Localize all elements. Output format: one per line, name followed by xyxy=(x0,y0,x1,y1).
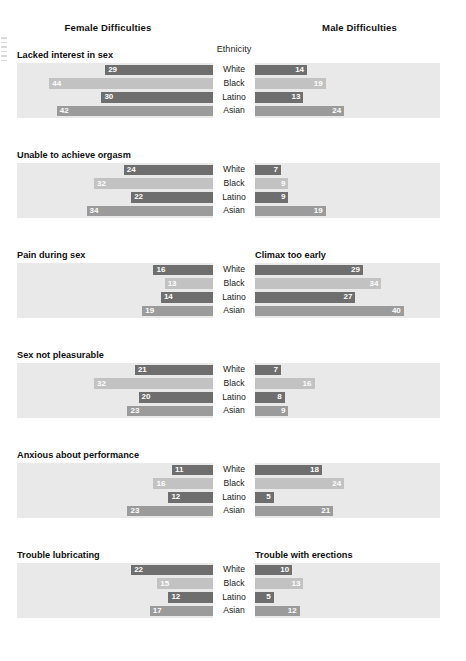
bar-row: 21 xyxy=(17,363,213,377)
group-title-left: Anxious about performance xyxy=(17,450,139,460)
bar-asian: 19 xyxy=(142,306,213,317)
bar-row: 40 xyxy=(255,304,440,318)
bar-value-label: 21 xyxy=(138,366,147,374)
ethnicity-label-latino: Latino xyxy=(213,191,255,205)
bar-value-label: 24 xyxy=(332,107,341,115)
bar-panel-right: 14191324 xyxy=(255,63,440,118)
bar-latino: 13 xyxy=(255,92,303,103)
bar-panel-left: 22151217 xyxy=(17,563,213,618)
bar-row: 13 xyxy=(255,577,440,591)
bar-value-label: 32 xyxy=(97,380,106,388)
bar-row: 24 xyxy=(255,477,440,491)
group-title-left: Lacked interest in sex xyxy=(17,50,113,60)
bar-value-label: 5 xyxy=(266,593,270,601)
bar-row: 8 xyxy=(255,391,440,405)
bar-black: 24 xyxy=(255,478,344,489)
bar-row: 16 xyxy=(255,377,440,391)
bar-value-label: 44 xyxy=(52,80,61,88)
group-title-right: Climax too early xyxy=(255,250,326,260)
bar-asian: 19 xyxy=(255,206,326,217)
bar-asian: 23 xyxy=(127,406,213,417)
bar-white: 7 xyxy=(255,165,281,176)
bar-value-label: 12 xyxy=(171,593,180,601)
bar-value-label: 18 xyxy=(310,466,319,474)
bar-value-label: 12 xyxy=(288,607,297,615)
bar-row: 5 xyxy=(255,491,440,505)
bar-row: 32 xyxy=(17,177,213,191)
bar-row: 14 xyxy=(17,291,213,305)
bar-value-label: 11 xyxy=(175,466,183,474)
bar-value-label: 19 xyxy=(314,207,323,215)
bar-value-label: 23 xyxy=(130,507,139,515)
bar-asian: 42 xyxy=(57,106,213,117)
bar-value-label: 24 xyxy=(332,480,341,488)
ethnicity-label-white: White xyxy=(213,163,255,177)
ethnicity-label-latino: Latino xyxy=(213,591,255,605)
bar-latino: 8 xyxy=(255,392,285,403)
bar-latino: 9 xyxy=(255,192,288,203)
bar-row: 11 xyxy=(17,463,213,477)
bar-value-label: 19 xyxy=(145,307,154,315)
ethnicity-label-asian: Asian xyxy=(213,304,255,318)
bar-value-label: 32 xyxy=(97,180,106,188)
bar-row: 29 xyxy=(17,63,213,77)
bar-white: 14 xyxy=(255,65,307,76)
bar-white: 21 xyxy=(135,365,213,376)
bar-value-label: 5 xyxy=(266,493,270,501)
bar-asian: 23 xyxy=(127,506,213,517)
bar-black: 13 xyxy=(255,578,303,589)
bar-black: 32 xyxy=(94,178,213,189)
bar-black: 16 xyxy=(255,378,315,389)
bar-row: 24 xyxy=(255,104,440,118)
ethnicity-label-white: White xyxy=(213,363,255,377)
bar-value-label: 8 xyxy=(277,393,281,401)
bar-latino: 12 xyxy=(168,592,213,603)
group-title-left: Unable to achieve orgasm xyxy=(17,150,131,160)
bar-white: 22 xyxy=(131,565,213,576)
bar-asian: 24 xyxy=(255,106,344,117)
bar-asian: 9 xyxy=(255,406,288,417)
bar-row: 30 xyxy=(17,91,213,105)
bar-row: 13 xyxy=(17,277,213,291)
bar-value-label: 30 xyxy=(104,93,113,101)
bar-value-label: 13 xyxy=(291,93,300,101)
bar-value-label: 9 xyxy=(281,193,285,201)
bar-black: 32 xyxy=(94,378,213,389)
bar-latino: 30 xyxy=(101,92,213,103)
bar-row: 22 xyxy=(17,191,213,205)
bar-value-label: 17 xyxy=(153,607,162,615)
bar-value-label: 16 xyxy=(303,380,312,388)
ethnicity-label-column: WhiteBlackLatinoAsian xyxy=(213,363,255,418)
bar-value-label: 10 xyxy=(280,566,289,574)
bar-asian: 21 xyxy=(255,506,333,517)
bar-white: 29 xyxy=(255,265,363,276)
ethnicity-label-asian: Asian xyxy=(213,204,255,218)
ethnicity-label-column: WhiteBlackLatinoAsian xyxy=(213,563,255,618)
bar-row: 10 xyxy=(255,563,440,577)
bar-value-label: 29 xyxy=(108,66,117,74)
bar-value-label: 14 xyxy=(164,293,173,301)
ethnicity-label-latino: Latino xyxy=(213,91,255,105)
bar-row: 9 xyxy=(255,177,440,191)
bar-value-label: 9 xyxy=(281,180,285,188)
bar-row: 16 xyxy=(17,263,213,277)
ethnicity-label-black: Black xyxy=(213,377,255,391)
bar-panel-right: 29342740 xyxy=(255,263,440,318)
bar-row: 7 xyxy=(255,363,440,377)
bar-white: 10 xyxy=(255,565,292,576)
ethnicity-label-black: Black xyxy=(213,177,255,191)
bar-row: 9 xyxy=(255,191,440,205)
bar-row: 12 xyxy=(255,604,440,618)
ethnicity-label-column: WhiteBlackLatinoAsian xyxy=(213,163,255,218)
ethnicity-label-column: WhiteBlackLatinoAsian xyxy=(213,463,255,518)
bar-row: 32 xyxy=(17,377,213,391)
bar-asian: 12 xyxy=(255,606,300,617)
bar-panel-left: 24322234 xyxy=(17,163,213,218)
ethnicity-label-black: Black xyxy=(213,577,255,591)
bar-row: 12 xyxy=(17,491,213,505)
bar-value-label: 27 xyxy=(344,293,353,301)
bar-row: 12 xyxy=(17,591,213,605)
bar-row: 24 xyxy=(17,163,213,177)
bar-latino: 20 xyxy=(139,392,213,403)
ethnicity-label-white: White xyxy=(213,263,255,277)
